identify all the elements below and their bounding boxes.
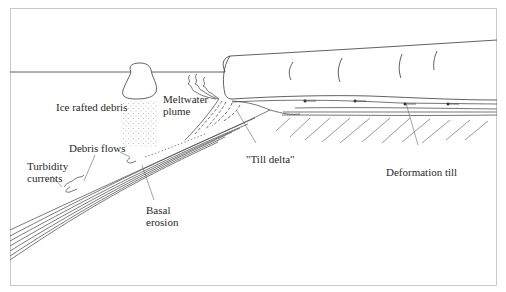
label-ice-rafted-debris: Ice rafted debris [56,101,127,113]
iceberg [123,63,157,99]
till-delta-foresets [185,99,300,140]
label-deformation-till: Deformation till [386,166,457,178]
debris-flows [66,158,136,192]
bedrock-hatching [276,118,488,143]
subglacial-deformation-till [232,100,497,115]
label-basal-erosion-1: Basal [146,204,170,216]
label-till-delta: "Till delta" [246,153,295,165]
glacier [223,40,497,100]
label-basal-erosion-2: erosion [146,216,178,228]
glacier-margin-diagram: Ice rafted debris Meltwater plume Debris… [0,0,506,292]
label-meltwater-plume-1: Meltwater [163,93,208,105]
label-debris-flows: Debris flows [69,142,126,154]
label-turbidity-1: Turbidity [27,160,68,172]
turbidity-currents [64,175,84,187]
label-meltwater-plume-2: plume [163,105,191,117]
label-turbidity-2: currents [27,172,62,184]
